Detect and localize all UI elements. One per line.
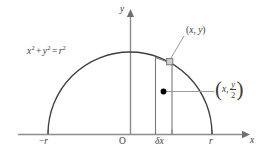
element-strip xyxy=(156,58,173,134)
equation-r-exponent: 2 xyxy=(63,44,66,51)
x-axis-arrowhead xyxy=(242,131,250,138)
label-top-point: (x, y) xyxy=(186,26,206,36)
label-centroid-point: (x, y 2 ) xyxy=(215,80,244,99)
leader-line-top-point xyxy=(171,36,184,58)
centroid-fraction: y 2 xyxy=(230,80,237,99)
origin-label: O xyxy=(119,137,126,147)
x-axis-tick-label-r: r xyxy=(209,137,213,147)
centroid-fraction-numerator: y xyxy=(231,80,235,89)
top-point-comma: , xyxy=(193,25,195,35)
strip-top-marker xyxy=(167,59,173,65)
y-axis-arrowhead xyxy=(127,9,134,17)
circle-equation: x2+y2=r2 xyxy=(27,45,66,57)
centroid-close-paren: ) xyxy=(237,81,244,97)
equation-equals: = xyxy=(51,46,59,56)
x-axis-label: x xyxy=(250,136,254,146)
top-point-close-paren: ) xyxy=(202,25,205,35)
centroid-fraction-denominator: 2 xyxy=(231,91,235,100)
equation-plus: + xyxy=(35,46,43,56)
centroid-dot xyxy=(161,89,167,95)
y-axis-label: y xyxy=(120,5,124,15)
minus-r-value: r xyxy=(44,136,48,146)
strip-width-label: δx xyxy=(155,137,164,147)
semicircle-centroid-figure: x2+y2=r2 (x, y) (x, y 2 ) −r O δx r x y xyxy=(0,0,264,162)
x-axis-tick-label-minus-r: −r xyxy=(39,137,48,147)
centroid-open-paren: ( xyxy=(215,81,222,97)
